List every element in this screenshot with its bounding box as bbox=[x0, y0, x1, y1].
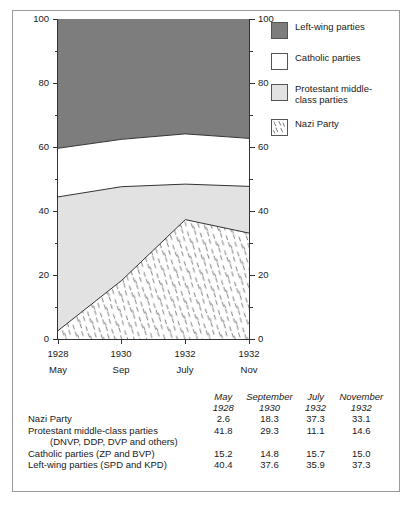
table-row: Left-wing parties (SPD and KPD) 40.4 37.… bbox=[28, 459, 386, 471]
nazi-swatch bbox=[271, 119, 288, 136]
header-month-3: November bbox=[337, 391, 386, 402]
y-tick-right-20 bbox=[250, 275, 255, 276]
y-label-right-0: 0 bbox=[258, 334, 263, 344]
y-label-left-100: 100 bbox=[15, 14, 49, 24]
catholic-swatch bbox=[271, 53, 288, 70]
row-left-v0: 40.4 bbox=[202, 459, 244, 471]
x-label-1932n-year: 1932 bbox=[226, 348, 272, 360]
header-month-1: September bbox=[244, 391, 294, 402]
legend-label-protestant-line2: class parties bbox=[295, 94, 348, 105]
row-label-catholic: Catholic parties (ZP and BVP) bbox=[28, 448, 202, 460]
y-label-left-40: 40 bbox=[15, 206, 49, 216]
legend-item-nazi: Nazi Party bbox=[271, 118, 393, 136]
header-month-0: May bbox=[202, 391, 244, 402]
x-label-1932n-month: Nov bbox=[226, 364, 272, 376]
table-header-year-row: 1928 1930 1932 1932 bbox=[28, 402, 386, 413]
y-label-right-40: 40 bbox=[258, 206, 269, 216]
table-corner-blank-2 bbox=[28, 402, 202, 413]
legend-label-left-wing: Left-wing parties bbox=[295, 21, 365, 32]
header-year-1: 1930 bbox=[244, 402, 294, 413]
row-nazi-v1: 18.3 bbox=[244, 413, 294, 425]
row-left-v1: 37.6 bbox=[244, 459, 294, 471]
y-tick-right-100 bbox=[250, 19, 255, 20]
row-sublabel-protestant: (DNVP, DDP, DVP and others) bbox=[28, 436, 202, 448]
table-row-sub: (DNVP, DDP, DVP and others) bbox=[28, 436, 386, 448]
x-tick-1932-july bbox=[185, 340, 186, 344]
row-label-nazi: Nazi Party bbox=[28, 413, 202, 425]
row-catholic-v2: 15.7 bbox=[295, 448, 337, 460]
row-nazi-v3: 33.1 bbox=[337, 413, 386, 425]
y-tick-left-90 bbox=[55, 51, 58, 52]
row-catholic-v0: 15.2 bbox=[202, 448, 244, 460]
y-tick-left-30 bbox=[55, 243, 58, 244]
table-row: Nazi Party 2.6 18.3 37.3 33.1 bbox=[28, 413, 386, 425]
header-year-3: 1932 bbox=[337, 402, 386, 413]
chart-legend: Left-wing parties Catholic parties Prote… bbox=[271, 21, 393, 149]
x-label-1930-year: 1930 bbox=[98, 348, 144, 360]
row-catholic-v3: 15.0 bbox=[337, 448, 386, 460]
table-corner-blank bbox=[28, 391, 202, 402]
row-protestant-v0: 41.8 bbox=[202, 425, 244, 437]
y-tick-right-40 bbox=[250, 211, 255, 212]
legend-item-left-wing: Left-wing parties bbox=[271, 21, 393, 39]
y-label-left-60: 60 bbox=[15, 142, 49, 152]
table-row: Catholic parties (ZP and BVP) 15.2 14.8 … bbox=[28, 448, 386, 460]
y-tick-right-80 bbox=[250, 83, 255, 84]
y-tick-left-40 bbox=[53, 211, 58, 212]
legend-label-catholic: Catholic parties bbox=[295, 52, 360, 63]
table-row: Protestant middle-class parties 41.8 29.… bbox=[28, 425, 386, 437]
legend-item-catholic: Catholic parties bbox=[271, 52, 393, 70]
y-tick-left-60 bbox=[53, 147, 58, 148]
row-nazi-v0: 2.6 bbox=[202, 413, 244, 425]
header-year-2: 1932 bbox=[295, 402, 337, 413]
y-tick-right-30 bbox=[250, 243, 253, 244]
left-wing-swatch bbox=[271, 22, 288, 39]
legend-label-nazi: Nazi Party bbox=[295, 118, 339, 129]
y-tick-right-90 bbox=[250, 51, 253, 52]
row-nazi-v2: 37.3 bbox=[295, 413, 337, 425]
table-header-month-row: May September July November bbox=[28, 391, 386, 402]
x-axis-line bbox=[57, 339, 250, 340]
legend-label-protestant-line1: Protestant middle- bbox=[295, 83, 372, 94]
chart-area: 100 80 60 40 20 0 100 80 60 40 20 0 1928… bbox=[13, 11, 401, 383]
data-table-block: May September July November 1928 1930 19… bbox=[13, 385, 401, 493]
protestant-swatch bbox=[271, 84, 288, 101]
area-left-wing bbox=[58, 19, 249, 148]
y-tick-left-70 bbox=[55, 115, 58, 116]
y-tick-right-50 bbox=[250, 179, 253, 180]
x-label-1928-month: May bbox=[35, 364, 81, 376]
y-tick-left-80 bbox=[53, 83, 58, 84]
x-label-1932j-month: July bbox=[162, 364, 208, 376]
row-protestant-v2: 11.1 bbox=[295, 425, 337, 437]
x-label-1928-year: 1928 bbox=[35, 348, 81, 360]
y-tick-right-0 bbox=[250, 339, 255, 340]
y-label-right-20: 20 bbox=[258, 270, 269, 280]
row-label-protestant: Protestant middle-class parties bbox=[28, 425, 202, 437]
y-label-left-80: 80 bbox=[15, 78, 49, 88]
legend-item-protestant: Protestant middle-class parties bbox=[271, 83, 393, 105]
x-label-1932j-year: 1932 bbox=[162, 348, 208, 360]
y-label-right-60: 60 bbox=[258, 142, 269, 152]
y-tick-right-70 bbox=[250, 115, 253, 116]
x-tick-1930 bbox=[121, 340, 122, 344]
stacked-area-plot bbox=[58, 19, 249, 339]
row-protestant-v1: 29.3 bbox=[244, 425, 294, 437]
y-label-left-20: 20 bbox=[15, 270, 49, 280]
y-label-right-80: 80 bbox=[258, 78, 269, 88]
row-left-v3: 37.3 bbox=[337, 459, 386, 471]
x-tick-1932-nov bbox=[249, 340, 250, 344]
row-protestant-v3: 14.6 bbox=[337, 425, 386, 437]
row-catholic-v1: 14.8 bbox=[244, 448, 294, 460]
y-tick-right-10 bbox=[250, 307, 253, 308]
header-month-2: July bbox=[295, 391, 337, 402]
y-tick-left-20 bbox=[53, 275, 58, 276]
y-tick-left-50 bbox=[55, 179, 58, 180]
row-left-v2: 35.9 bbox=[295, 459, 337, 471]
y-label-left-0: 0 bbox=[15, 334, 49, 344]
figure-frame: 100 80 60 40 20 0 100 80 60 40 20 0 1928… bbox=[12, 10, 400, 492]
x-label-1930-month: Sep bbox=[98, 364, 144, 376]
legend-label-protestant: Protestant middle-class parties bbox=[295, 83, 372, 105]
results-table: May September July November 1928 1930 19… bbox=[28, 391, 386, 471]
y-tick-left-10 bbox=[55, 307, 58, 308]
header-year-0: 1928 bbox=[202, 402, 244, 413]
